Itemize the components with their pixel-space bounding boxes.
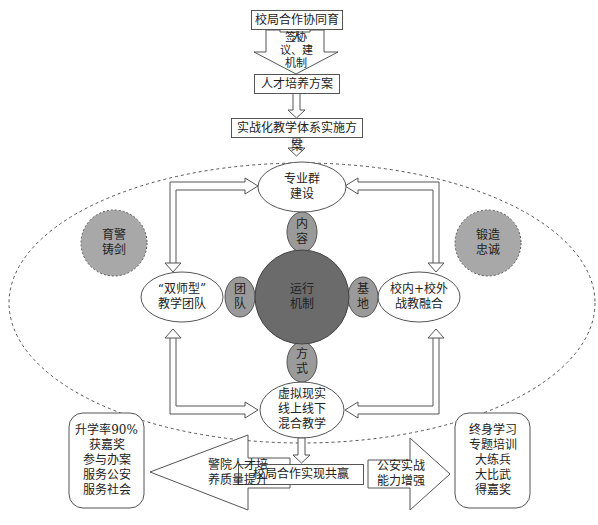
arrow-bottom-right-loop <box>345 329 444 418</box>
label-petal-content: 内 容 <box>292 217 312 247</box>
label-dual-teacher-team: “双师型” 教学团队 <box>141 282 223 312</box>
box-practical-teaching-plan: 实战化教学体系实施方案 <box>231 118 363 138</box>
arrow-top-left-loop <box>165 178 258 272</box>
label-professional-group: 专业群 建设 <box>262 172 342 202</box>
label-police-capability: 公安实战 能力增强 <box>368 459 434 489</box>
label-blended-teaching: 虚拟现实 线上线下 混合教学 <box>262 387 342 432</box>
label-campus-integration: 校内+校外 战教融合 <box>378 282 460 312</box>
label-center-mechanism: 运行 机制 <box>272 282 332 312</box>
label-talent-quality: 警院人才培 养质量提升 <box>188 458 288 488</box>
arrow-top-right-loop <box>345 178 444 272</box>
label-result-left: 升学率90% 获嘉奖 参与办案 服务公安 服务社会 <box>69 423 144 498</box>
box-talent-training-plan: 人才培养方案 <box>254 74 340 94</box>
box-school-bureau-cooperation: 校局合作协同育人 <box>251 10 343 30</box>
diagram-canvas: 校局合作协同育人 签协 议、建 机制 人才培养方案 实战化教学体系实施方案 专业… <box>0 0 598 525</box>
arrow-plan-to-system <box>288 92 305 118</box>
label-result-right: 终身学习 专题培训 大练兵 大比武 得嘉奖 <box>455 423 530 498</box>
label-petal-team: 团 队 <box>230 282 250 312</box>
arrow-bottom-left-loop <box>165 329 258 418</box>
arrow-to-win-win <box>293 438 310 463</box>
label-petal-base: 基 地 <box>353 282 373 312</box>
label-loyalty: 锻造 忠诚 <box>468 228 508 258</box>
label-sign-agreement: 签协 议、建 机制 <box>266 31 326 70</box>
label-petal-method: 方 式 <box>292 347 312 377</box>
label-police-training: 育警 铸剑 <box>94 228 134 258</box>
